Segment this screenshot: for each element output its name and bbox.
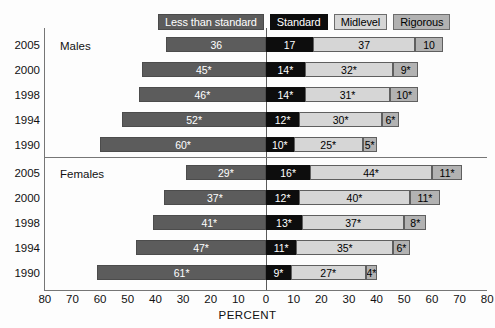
stacked-bar: 45*14*32*9* bbox=[0, 62, 495, 77]
chart-row: 200037*12*40*11* bbox=[0, 187, 495, 211]
bar-segment-standard: 12* bbox=[266, 190, 299, 205]
x-tick-label: 70 bbox=[57, 293, 87, 305]
stacked-bar: 52*12*30*6* bbox=[0, 112, 495, 127]
bar-segment-standard: 13* bbox=[266, 215, 302, 230]
stacked-bar: 29*16*44*11* bbox=[0, 165, 495, 180]
bar-segment-rigorous: 11* bbox=[410, 190, 440, 205]
bar-segment-less-than-standard: 41* bbox=[153, 215, 266, 230]
bar-segment-less-than-standard: 29* bbox=[186, 165, 266, 180]
chart-row: 200536173710 bbox=[0, 34, 495, 58]
bar-segment-less-than-standard: 47* bbox=[136, 240, 266, 255]
stacked-bar: 37*12*40*11* bbox=[0, 190, 495, 205]
bar-segment-standard: 17 bbox=[266, 37, 313, 52]
stacked-bar: 36173710 bbox=[0, 37, 495, 52]
stacked-bar: 46*14*31*10* bbox=[0, 87, 495, 102]
bar-segment-rigorous: 6* bbox=[382, 112, 399, 127]
stacked-bar: 41*13*37*8* bbox=[0, 215, 495, 230]
bar-segment-rigorous: 11* bbox=[432, 165, 462, 180]
chart-row: 199060*10*25*5* bbox=[0, 134, 495, 158]
bar-segment-standard: 11* bbox=[266, 240, 296, 255]
bar-segment-midlevel: 37* bbox=[302, 215, 404, 230]
bar-segment-less-than-standard: 60* bbox=[100, 137, 266, 152]
x-tick-label: 20 bbox=[196, 293, 226, 305]
x-tick-label: 50 bbox=[113, 293, 143, 305]
bar-segment-standard: 14* bbox=[266, 62, 305, 77]
stacked-bar: 47*11*35*6* bbox=[0, 240, 495, 255]
bar-segment-midlevel: 27* bbox=[291, 265, 366, 280]
x-tick-label: 60 bbox=[417, 293, 447, 305]
x-axis-title: PERCENT bbox=[0, 309, 495, 321]
x-tick-label: 30 bbox=[334, 293, 364, 305]
bar-segment-less-than-standard: 61* bbox=[97, 265, 266, 280]
x-tick-label: 30 bbox=[168, 293, 198, 305]
bar-segment-rigorous: 10* bbox=[390, 87, 418, 102]
bar-segment-less-than-standard: 36 bbox=[166, 37, 266, 52]
bar-segment-standard: 9* bbox=[266, 265, 291, 280]
x-tick-label: 50 bbox=[389, 293, 419, 305]
bar-segment-rigorous: 10 bbox=[415, 37, 443, 52]
bar-segment-standard: 16* bbox=[266, 165, 310, 180]
x-tick-label: 40 bbox=[362, 293, 392, 305]
bar-segment-standard: 10* bbox=[266, 137, 294, 152]
x-tick-label: 40 bbox=[140, 293, 170, 305]
chart-row: 199061*9*27*4* bbox=[0, 262, 495, 286]
x-tick-label: 0 bbox=[251, 293, 281, 305]
bar-segment-midlevel: 32* bbox=[305, 62, 393, 77]
bar-segment-midlevel: 37 bbox=[313, 37, 415, 52]
bar-segment-less-than-standard: 46* bbox=[139, 87, 266, 102]
chart-row: 200045*14*32*9* bbox=[0, 59, 495, 83]
stacked-bar: 60*10*25*5* bbox=[0, 137, 495, 152]
bar-segment-standard: 12* bbox=[266, 112, 299, 127]
bar-segment-midlevel: 31* bbox=[305, 87, 391, 102]
bar-segment-midlevel: 44* bbox=[310, 165, 432, 180]
bar-segment-less-than-standard: 52* bbox=[122, 112, 266, 127]
x-tick-label: 10 bbox=[279, 293, 309, 305]
bar-segment-less-than-standard: 37* bbox=[164, 190, 266, 205]
chart-row: 199447*11*35*6* bbox=[0, 237, 495, 261]
chart-row: 199452*12*30*6* bbox=[0, 109, 495, 133]
bar-segment-less-than-standard: 45* bbox=[142, 62, 266, 77]
bar-segment-midlevel: 35* bbox=[296, 240, 393, 255]
x-tick-label: 70 bbox=[445, 293, 475, 305]
stacked-bar: 61*9*27*4* bbox=[0, 265, 495, 280]
x-tick-label: 20 bbox=[306, 293, 336, 305]
bar-segment-midlevel: 30* bbox=[299, 112, 382, 127]
bar-segment-rigorous: 5* bbox=[363, 137, 377, 152]
chart-row: 200529*16*44*11* bbox=[0, 162, 495, 186]
x-tick-label: 10 bbox=[223, 293, 253, 305]
bar-segment-midlevel: 25* bbox=[294, 137, 363, 152]
x-tick-label: 80 bbox=[30, 293, 60, 305]
bar-segment-rigorous: 6* bbox=[393, 240, 410, 255]
bar-segment-standard: 14* bbox=[266, 87, 305, 102]
bar-segment-rigorous: 8* bbox=[404, 215, 426, 230]
chart-row: 199846*14*31*10* bbox=[0, 84, 495, 108]
stacked-bar-chart: Less than standard Standard Midlevel Rig… bbox=[0, 0, 495, 328]
x-tick-label: 60 bbox=[85, 293, 115, 305]
chart-row: 199841*13*37*8* bbox=[0, 212, 495, 236]
bar-segment-rigorous: 4* bbox=[366, 265, 377, 280]
bar-segment-midlevel: 40* bbox=[299, 190, 410, 205]
bar-segment-rigorous: 9* bbox=[393, 62, 418, 77]
x-axis-line bbox=[44, 290, 487, 291]
x-tick-label: 80 bbox=[472, 293, 495, 305]
